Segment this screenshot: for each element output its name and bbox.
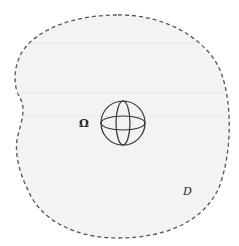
omega-label: Ω — [79, 117, 89, 130]
domain-diagram — [0, 0, 239, 246]
domain-d-boundary — [15, 15, 229, 238]
domain-label: D — [183, 185, 192, 198]
